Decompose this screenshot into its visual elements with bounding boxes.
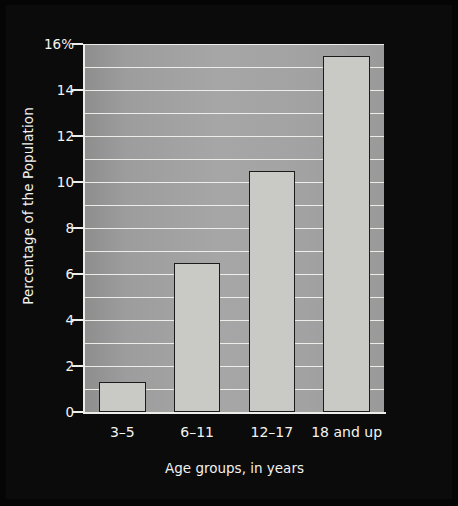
y-tick-mark (72, 43, 83, 45)
x-tick-label: 12–17 (251, 424, 294, 440)
y-tick-mark (72, 227, 83, 229)
bar-12–17[interactable] (249, 171, 295, 413)
x-axis-line (83, 412, 386, 414)
x-tick-label: 18 and up (311, 424, 382, 440)
y-tick-mark (72, 89, 83, 91)
y-tick-mark (72, 411, 83, 413)
plot-area (85, 44, 384, 412)
y-tick-mark (72, 365, 83, 367)
y-tick-label: 16% (44, 36, 74, 52)
bar-18-and-up[interactable] (323, 56, 369, 413)
y-axis-line (83, 44, 85, 414)
chart-figure: Percentage of the Population 02468101214… (0, 0, 458, 506)
bar-3–5[interactable] (99, 382, 145, 412)
y-axis-tick-labels: 0246810121416% (22, 0, 74, 506)
y-tick-mark (72, 135, 83, 137)
y-tick-mark (72, 319, 83, 321)
y-tick-mark (72, 181, 83, 183)
gridline (85, 44, 384, 45)
x-tick-label: 6–11 (180, 424, 214, 440)
bar-6–11[interactable] (174, 263, 220, 413)
x-tick-label: 3–5 (110, 424, 135, 440)
x-axis-title: Age groups, in years (85, 460, 384, 476)
y-tick-mark (72, 273, 83, 275)
